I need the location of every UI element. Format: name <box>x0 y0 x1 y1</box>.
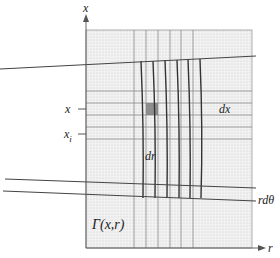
dr-label: dr <box>145 149 156 163</box>
xi-tick-label: xi <box>63 127 72 144</box>
vertical-axis-label: x <box>82 1 89 15</box>
horizontal-axis-label: r <box>268 241 273 255</box>
region-label: Γ(x,r) <box>91 217 125 233</box>
arrowhead-right-icon <box>258 245 266 251</box>
dx-label: dx <box>219 102 231 116</box>
arrowhead-up-icon <box>83 14 89 22</box>
x-tick-label: x <box>64 102 71 116</box>
diagram-canvas: x r x xi dx dr rdθ Γ(x,r) <box>0 0 280 258</box>
rdtheta-label: rdθ <box>258 193 274 207</box>
highlight-cell <box>146 103 158 115</box>
xi-subscript: i <box>69 134 72 144</box>
